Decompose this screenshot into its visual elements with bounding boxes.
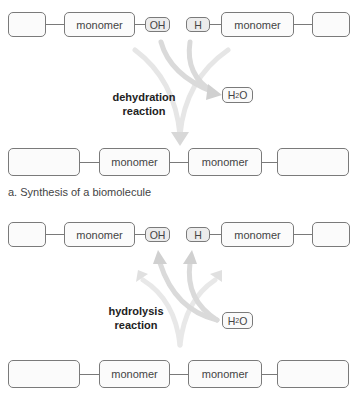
monomer-box: monomer bbox=[221, 12, 294, 37]
hydrolysis-label: hydrolysis reaction bbox=[96, 304, 176, 332]
bond-line bbox=[135, 24, 145, 25]
hydrogen-group: H bbox=[186, 17, 210, 32]
bond-line bbox=[262, 374, 277, 375]
monomer-box: monomer bbox=[99, 148, 170, 176]
end-box bbox=[8, 360, 80, 388]
bond-line bbox=[46, 24, 64, 25]
bond-line bbox=[135, 234, 145, 235]
end-box bbox=[277, 148, 349, 176]
water-molecule: H2O bbox=[222, 312, 253, 329]
bond-line bbox=[294, 24, 312, 25]
hydrogen-group: H bbox=[186, 227, 210, 242]
monomer-box: monomer bbox=[188, 148, 262, 176]
water-molecule: H2O bbox=[222, 87, 253, 103]
end-box bbox=[8, 222, 46, 247]
bond-line bbox=[210, 234, 221, 235]
bond-line bbox=[262, 162, 277, 163]
end-box bbox=[277, 360, 349, 388]
monomer-box: monomer bbox=[221, 222, 294, 247]
monomer-box: monomer bbox=[188, 360, 262, 388]
monomer-box: monomer bbox=[64, 12, 135, 37]
end-box bbox=[8, 12, 46, 37]
bond-line bbox=[210, 24, 221, 25]
end-box bbox=[312, 222, 350, 247]
bond-line bbox=[80, 162, 99, 163]
bond-line bbox=[170, 162, 188, 163]
figure-caption: a. Synthesis of a biomolecule bbox=[8, 186, 151, 198]
dehydration-label: dehydration reaction bbox=[104, 90, 184, 118]
bond-line bbox=[294, 234, 312, 235]
bond-line bbox=[170, 374, 188, 375]
end-box bbox=[312, 12, 350, 37]
end-box bbox=[8, 148, 80, 176]
hydroxyl-group: OH bbox=[145, 17, 170, 32]
hydroxyl-group: OH bbox=[145, 227, 170, 242]
monomer-box: monomer bbox=[99, 360, 170, 388]
reaction-arrows bbox=[0, 0, 360, 397]
bond-line bbox=[46, 234, 64, 235]
bond-line bbox=[80, 374, 99, 375]
monomer-box: monomer bbox=[64, 222, 135, 247]
